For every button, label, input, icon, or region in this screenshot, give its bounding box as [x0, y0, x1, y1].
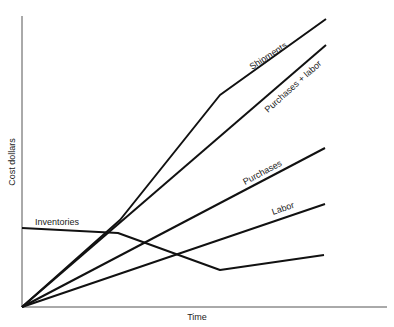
label-inventories: Inventories — [35, 217, 80, 227]
series-purchases — [22, 148, 325, 307]
x-axis-label: Time — [187, 312, 207, 322]
label-purchases-labor: Purchases + labor — [263, 58, 324, 114]
y-axis-label: Cost dollars — [7, 138, 17, 186]
line-chart: Shipments Purchases + labor Purchases La… — [0, 0, 394, 327]
series-inventories — [22, 228, 324, 270]
series-purchases-labor — [22, 45, 326, 307]
label-shipments: Shipments — [248, 40, 290, 72]
